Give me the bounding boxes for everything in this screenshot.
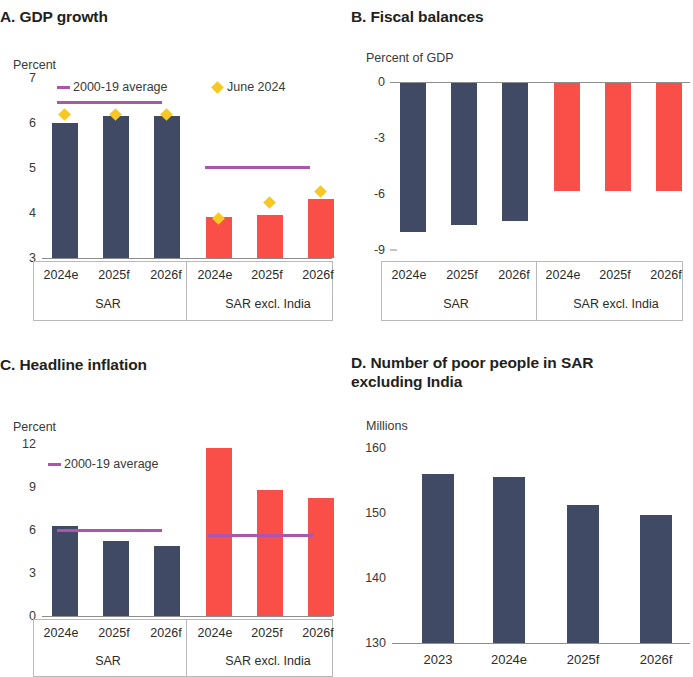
panel-c-legend-average-label: 2000-19 average	[64, 457, 159, 471]
panel-d-xlabel-2025f: 2025f	[553, 652, 613, 667]
panel-a-unit-label: Percent	[13, 58, 56, 72]
panel-b-unit-label: Percent of GDP	[366, 51, 454, 65]
panel-d-ytick-150: 150	[344, 506, 386, 520]
panel-a-ytick-6: 6	[2, 116, 36, 130]
panel-c-group-label-sar-excl-india: SAR excl. India	[208, 654, 328, 668]
panel-d-ytick-130: 130	[344, 636, 386, 650]
panel-b-bar-sar-excl-india-2026f	[656, 83, 682, 191]
panel-c-unit-label: Percent	[13, 420, 56, 434]
panel-a-ytick-4: 4	[2, 206, 36, 220]
panel-a-legend-june2024-label: June 2024	[227, 80, 285, 94]
panel-d-ytick-160: 160	[344, 441, 386, 455]
panel-a-baseline	[42, 258, 332, 259]
panel-d-xlabel-2023: 2023	[408, 652, 468, 667]
panel-a-xlabel-excl-2024e: 2024e	[190, 268, 240, 282]
panel-c-bar-sar-excl-india-2026f	[308, 498, 334, 616]
panel-c-baseline	[42, 616, 332, 617]
panel-d-xlabel-2026f: 2026f	[626, 652, 686, 667]
panel-c-xlabel-excl-2026f: 2026f	[293, 626, 343, 640]
panel-b-bar-sar-2025f	[451, 83, 477, 225]
panel-b-ytick-0: 0	[351, 75, 385, 89]
panel-d-bar-2025f	[567, 505, 599, 643]
panel-c-ytick-3: 3	[2, 566, 36, 580]
panel-a-ytick-7: 7	[2, 71, 36, 85]
panel-d-ytick-140: 140	[344, 571, 386, 585]
panel-b-bar-sar-2024e	[400, 83, 426, 232]
panel-b-xlabel-sar-2026f: 2026f	[489, 268, 539, 282]
panel-d-bar-2024e	[493, 477, 525, 643]
panel-d-bar-2023	[422, 474, 454, 643]
panel-b-title: B. Fiscal balances	[351, 8, 484, 26]
panel-b-group-label-sar: SAR	[406, 297, 506, 311]
panel-c-bar-sar-2025f	[103, 541, 129, 616]
panel-c-bar-sar-excl-india-2025f	[257, 490, 283, 616]
panel-c-xlabel-sar-2024e: 2024e	[36, 626, 86, 640]
panel-a-bar-sar-excl-india-2026f	[308, 199, 334, 258]
panel-a-title: A. GDP growth	[0, 8, 108, 26]
panel-a-group-label-sar: SAR	[58, 297, 158, 311]
panel-c-bar-sar-2026f	[154, 546, 180, 616]
panel-c-ytick-6: 6	[2, 523, 36, 537]
panel-c-avg-line-sar-excl-india	[208, 534, 313, 537]
panel-b-zero-line	[390, 82, 690, 83]
panel-d-title-line-2: excluding India	[351, 373, 462, 391]
panel-b-xlabel-excl-2026f: 2026f	[641, 268, 691, 282]
panel-a-ytick-5: 5	[2, 161, 36, 175]
panel-a-marker-sar-2024e	[58, 108, 71, 121]
panel-b-xlabel-sar-2025f: 2025f	[437, 268, 487, 282]
panel-c-xlabel-excl-2025f: 2025f	[242, 626, 292, 640]
panel-d-poor-people: D. Number of poor people in SAR excludin…	[346, 340, 693, 671]
panel-d-title-line-1: D. Number of poor people in SAR	[351, 354, 593, 372]
panel-a-xlabel-sar-2025f: 2025f	[89, 268, 139, 282]
panel-c-ytick-9: 9	[2, 480, 36, 494]
panel-b-ytick-neg6: -6	[351, 187, 385, 201]
panel-b-bar-sar-excl-india-2024e	[554, 83, 580, 191]
panel-d-baseline	[392, 643, 690, 644]
panel-a-legend-june2024: June 2024	[213, 80, 285, 94]
panel-c-title: C. Headline inflation	[0, 356, 147, 374]
panel-c-avg-line-sar	[57, 529, 162, 532]
panel-b-bar-sar-2026f	[502, 83, 528, 221]
panel-c-headline-inflation: C. Headline inflation Percent 2000-19 av…	[0, 340, 346, 671]
panel-b-ytick-neg9: -9	[351, 243, 385, 257]
panel-c-group-label-sar: SAR	[58, 654, 158, 668]
avg-line-swatch-icon	[57, 86, 70, 89]
panel-a-xlabel-excl-2025f: 2025f	[242, 268, 292, 282]
panel-a-xlabel-sar-2026f: 2026f	[141, 268, 191, 282]
panel-a-avg-line-sar-excl-india	[205, 166, 310, 169]
panel-a-marker-sar-excl-india-2025f	[263, 196, 276, 209]
panel-d-unit-label: Millions	[366, 419, 408, 433]
panel-b-xlabel-sar-2024e: 2024e	[384, 268, 434, 282]
panel-b-bar-sar-excl-india-2025f	[605, 83, 631, 191]
panel-c-ytick-12: 12	[2, 437, 36, 451]
panel-b-xlabel-excl-2025f: 2025f	[590, 268, 640, 282]
panel-a-bar-sar-excl-india-2025f	[257, 215, 283, 258]
panel-c-ytick-0: 0	[2, 609, 36, 623]
panel-a-marker-sar-excl-india-2026f	[314, 185, 327, 198]
panel-d-bar-2026f	[640, 515, 672, 643]
panel-a-ytick-3: 3	[2, 251, 36, 265]
panel-c-bar-sar-2024e	[52, 526, 78, 616]
panel-c-xlabel-sar-2025f: 2025f	[89, 626, 139, 640]
panel-a-bar-sar-2024e	[52, 123, 78, 258]
panel-c-legend-average: 2000-19 average	[48, 457, 159, 471]
panel-a-legend-average: 2000-19 average	[57, 80, 168, 94]
panel-b-ytick-neg3: -3	[351, 131, 385, 145]
panel-b-ytick-dash-neg9	[390, 250, 397, 251]
panel-a-avg-line-sar	[57, 101, 162, 104]
panel-c-xlabel-sar-2026f: 2026f	[141, 626, 191, 640]
panel-b-fiscal-balances: B. Fiscal balances Percent of GDP 0 -3 -…	[346, 0, 693, 335]
panel-a-xlabel-excl-2026f: 2026f	[293, 268, 343, 282]
panel-b-group-label-sar-excl-india: SAR excl. India	[556, 297, 676, 311]
panel-a-legend-average-label: 2000-19 average	[73, 80, 168, 94]
panel-a-gdp-growth: A. GDP growth Percent 2000-19 average Ju…	[0, 0, 346, 335]
panel-a-xlabel-sar-2024e: 2024e	[36, 268, 86, 282]
panel-a-bar-sar-2025f	[103, 116, 129, 258]
panel-c-bar-sar-excl-india-2024e	[206, 448, 232, 616]
panel-c-xlabel-excl-2024e: 2024e	[190, 626, 240, 640]
panel-a-group-label-sar-excl-india: SAR excl. India	[208, 297, 328, 311]
june-2024-diamond-icon	[211, 81, 224, 94]
panel-b-xlabel-excl-2024e: 2024e	[538, 268, 588, 282]
avg-line-swatch-icon	[48, 463, 61, 466]
panel-d-xlabel-2024e: 2024e	[479, 652, 539, 667]
